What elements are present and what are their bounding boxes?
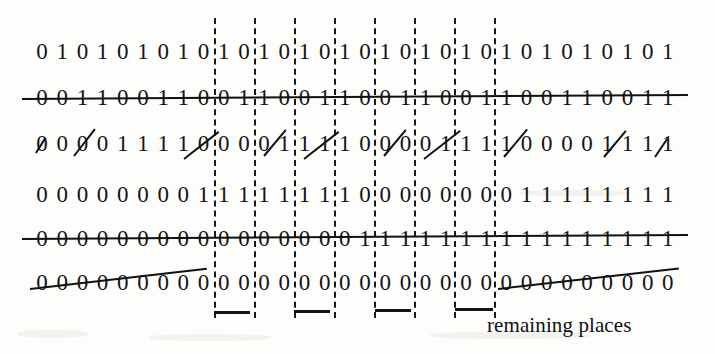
bit-cell: 0 (557, 271, 577, 294)
bit-cell: 0 (335, 227, 355, 250)
bit-cell: 0 (597, 86, 617, 109)
bit-cell: 0 (436, 183, 456, 206)
bit-cell: 1 (234, 86, 254, 109)
bit-cell: 0 (52, 271, 72, 294)
bit-cell: 0 (294, 86, 314, 109)
bit-cell: 1 (537, 40, 557, 63)
bit-cell: 0 (456, 271, 476, 294)
bit-cell: 1 (638, 86, 658, 109)
bit-cell: 0 (456, 86, 476, 109)
bit-cell: 0 (32, 183, 52, 206)
bit-cell: 1 (557, 183, 577, 206)
bit-cell: 0 (133, 227, 153, 250)
bit-cell: 1 (456, 40, 476, 63)
bit-cell: 0 (476, 271, 496, 294)
bit-row-6: 00000000000000000000000000000000 (32, 265, 678, 299)
bit-cell: 0 (113, 227, 133, 250)
bit-cell: 0 (375, 271, 395, 294)
bit-cell: 0 (456, 183, 476, 206)
bit-cell: 0 (214, 132, 234, 155)
bit-cell: 0 (254, 227, 274, 250)
bit-cell: 1 (315, 132, 335, 155)
bit-cell: 1 (294, 40, 314, 63)
bit-cell: 0 (375, 86, 395, 109)
bit-row-4: 00000000111111110000000011111111 (32, 177, 678, 211)
bit-cell: 0 (52, 132, 72, 155)
bit-cell: 1 (617, 183, 637, 206)
bit-cell: 0 (72, 271, 92, 294)
bit-cell: 0 (517, 132, 537, 155)
bit-cell: 1 (638, 227, 658, 250)
bit-cell: 1 (476, 132, 496, 155)
bit-cell: 1 (517, 183, 537, 206)
bit-cell: 1 (658, 86, 678, 109)
bit-cell: 0 (416, 132, 436, 155)
bit-cell: 0 (537, 271, 557, 294)
bit-cell: 1 (335, 132, 355, 155)
bit-cell: 0 (436, 40, 456, 63)
bit-cell: 1 (93, 40, 113, 63)
bit-cell: 0 (72, 132, 92, 155)
bit-cell: 0 (32, 86, 52, 109)
bit-cell: 0 (517, 40, 537, 63)
paper-smudge (150, 334, 270, 341)
bit-cell: 0 (214, 86, 234, 109)
bit-cell: 0 (638, 271, 658, 294)
bit-cell: 1 (436, 132, 456, 155)
bit-cell: 1 (355, 227, 375, 250)
bit-cell: 0 (133, 271, 153, 294)
bit-cell: 1 (658, 227, 678, 250)
bit-cell: 1 (496, 40, 516, 63)
bit-cell: 1 (597, 132, 617, 155)
tickmark-3 (375, 309, 411, 312)
bit-cell: 0 (537, 86, 557, 109)
bit-cell: 0 (173, 183, 193, 206)
bit-cell: 1 (416, 40, 436, 63)
bit-cell: 1 (274, 132, 294, 155)
bit-cell: 1 (456, 132, 476, 155)
bit-cell: 0 (72, 227, 92, 250)
bit-cell: 0 (355, 271, 375, 294)
bit-cell: 1 (638, 183, 658, 206)
bit-cell: 0 (315, 227, 335, 250)
bit-cell: 0 (496, 271, 516, 294)
bit-cell: 0 (274, 227, 294, 250)
bit-cell: 0 (113, 271, 133, 294)
bit-cell: 0 (93, 132, 113, 155)
bit-row-3: 00001111000011110000111100001111 (32, 126, 678, 160)
bit-cell: 0 (52, 227, 72, 250)
bit-cell: 1 (617, 40, 637, 63)
bit-cell: 0 (32, 40, 52, 63)
bit-row-5: 00000000000000001111111111111111 (32, 221, 678, 255)
bit-cell: 1 (274, 183, 294, 206)
bit-cell: 0 (93, 271, 113, 294)
bit-cell: 1 (456, 227, 476, 250)
bit-cell: 1 (133, 40, 153, 63)
bit-cell: 0 (113, 40, 133, 63)
bit-cell: 0 (597, 271, 617, 294)
bit-cell: 0 (173, 271, 193, 294)
bit-cell: 0 (294, 227, 314, 250)
bit-cell: 1 (173, 132, 193, 155)
bit-cell: 0 (517, 271, 537, 294)
bit-cell: 0 (32, 227, 52, 250)
bit-cell: 0 (153, 271, 173, 294)
bit-cell: 0 (355, 132, 375, 155)
bit-cell: 0 (214, 227, 234, 250)
bit-cell: 0 (93, 183, 113, 206)
bit-cell: 0 (577, 271, 597, 294)
bit-cell: 0 (72, 183, 92, 206)
bit-cell: 0 (577, 132, 597, 155)
bit-cell: 1 (93, 86, 113, 109)
bit-cell: 1 (597, 227, 617, 250)
bit-cell: 1 (335, 40, 355, 63)
bit-cell: 1 (416, 86, 436, 109)
bit-cell: 0 (375, 183, 395, 206)
bit-cell: 1 (315, 86, 335, 109)
bit-cell: 0 (395, 40, 415, 63)
bit-cell: 1 (254, 40, 274, 63)
bit-cell: 0 (32, 271, 52, 294)
bit-cell: 1 (395, 86, 415, 109)
bit-cell: 1 (577, 183, 597, 206)
bit-cell: 0 (52, 183, 72, 206)
